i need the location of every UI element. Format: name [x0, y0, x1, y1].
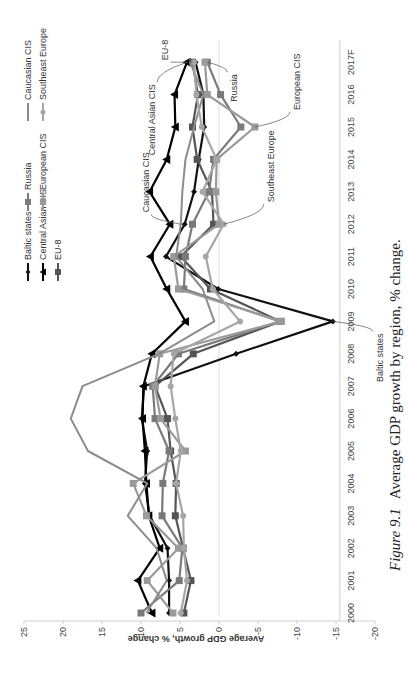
data-point-marker [212, 188, 219, 195]
figure-caption-label: Figure 9.1 [387, 508, 403, 572]
data-point-marker [205, 188, 212, 195]
series-central-asian-cis [133, 58, 190, 618]
y-tick-label: -10 [292, 627, 302, 640]
x-tick-label: 2012 [346, 214, 356, 234]
data-point-marker [138, 610, 145, 617]
rotated-chart-figure: 2520151050-5-10-15-202000200120022003200… [0, 0, 411, 681]
data-point-marker [144, 577, 151, 584]
figure-caption-text: Average GDP growth by region, % change. [387, 239, 403, 499]
chart-legend: Baltic statesCentral Asian CISEU-8Russia… [23, 28, 63, 281]
data-point-marker [164, 415, 171, 422]
annotation-label: European CIS [292, 53, 302, 110]
data-point-marker [194, 156, 201, 163]
data-point-marker [175, 286, 182, 293]
gdp-growth-line-chart: 2520151050-5-10-15-202000200120022003200… [0, 0, 411, 681]
data-point-marker [193, 92, 199, 98]
data-point-marker [199, 124, 205, 130]
x-tick-label: 2009 [346, 311, 356, 331]
data-point-marker [168, 383, 174, 389]
data-point-marker [165, 220, 173, 229]
legend-label: Caucasian CIS [23, 40, 33, 100]
x-tick-label: 2006 [346, 409, 356, 429]
x-tick-label: 2003 [346, 506, 356, 526]
legend-item-caucasian-cis: Caucasian CIS [23, 40, 33, 121]
y-tick-label: -5 [253, 627, 263, 635]
y-tick-label: 25 [19, 627, 29, 637]
x-tick-label: 2017F [346, 49, 356, 75]
data-point-marker [173, 480, 179, 486]
x-tick-label: 2004 [346, 473, 356, 493]
annotation-label: Baltic states [375, 333, 385, 382]
data-point-marker [203, 254, 209, 260]
data-point-marker [190, 350, 197, 357]
x-tick-label: 2000 [346, 603, 356, 623]
legend-label: EU-8 [53, 239, 63, 260]
series-caucasian-cis [71, 62, 215, 613]
data-point-marker [176, 577, 183, 584]
data-point-marker [237, 318, 243, 324]
x-tick-label: 2011 [346, 247, 356, 266]
annotation-southeast-europe: Southeast Europe [224, 130, 276, 224]
annotation-label: Caucasian CIS [141, 152, 151, 212]
annotation-caucasian-cis: Caucasian CIS [141, 152, 181, 224]
annotation-leader-line [255, 112, 290, 127]
legend-item-baltic-states: Baltic states [23, 211, 33, 281]
y-tick-label: 20 [58, 627, 68, 637]
data-point-marker [171, 351, 177, 357]
x-tick-label: 2002 [346, 538, 356, 558]
data-point-marker [237, 124, 244, 131]
data-point-marker [204, 91, 211, 98]
y-axis-label: Average GDP growth, % change [128, 634, 265, 644]
data-point-marker [178, 610, 184, 616]
data-point-marker [181, 545, 187, 551]
figure-page: 2520151050-5-10-15-202000200120022003200… [0, 0, 411, 681]
y-tick-label: -20 [370, 627, 380, 640]
data-point-marker [184, 578, 190, 584]
data-point-marker [152, 383, 159, 390]
annotation-baltic-states: Baltic states [333, 321, 385, 382]
data-point-marker [159, 480, 166, 487]
data-point-marker [214, 156, 220, 162]
annotation-european-cis: European CIS [255, 53, 302, 127]
data-point-marker [278, 318, 285, 325]
legend-item-eu-8: EU-8 [53, 239, 63, 281]
data-point-marker [233, 351, 239, 357]
legend-item-russia: Russia [23, 162, 33, 211]
figure-caption: Figure 9.1 Average GDP growth by region,… [387, 239, 403, 572]
data-point-marker [143, 512, 150, 519]
legend-label: European CIS [38, 133, 48, 190]
x-tick-label: 2014 [346, 149, 356, 169]
x-tick-label: 2001 [346, 571, 356, 591]
data-point-marker [180, 513, 186, 519]
data-point-marker [172, 416, 178, 422]
annotation-label: EU-8 [160, 40, 170, 61]
data-point-marker [146, 252, 154, 261]
legend-item-southeast-europe: Southeast Europe [38, 28, 48, 121]
x-tick-label: 2010 [346, 279, 356, 299]
x-tick-label: 2007 [346, 376, 356, 396]
x-tick-label: 2013 [346, 182, 356, 202]
annotation-leader-line [224, 204, 264, 224]
annotation-label: Central Asian CIS [147, 84, 157, 155]
data-point-marker [169, 610, 176, 617]
data-point-marker [189, 221, 196, 228]
data-point-marker [130, 480, 137, 487]
series-layer [71, 58, 336, 618]
legend-label: Baltic states [23, 211, 33, 260]
x-tick-label: 2008 [346, 344, 356, 364]
x-tick-label: 2016 [346, 85, 356, 105]
data-point-marker [175, 545, 182, 552]
y-tick-label: -15 [331, 627, 341, 640]
series-line [71, 62, 215, 613]
x-tick-label: 2015 [346, 117, 356, 137]
data-point-marker [159, 512, 166, 519]
y-tick-label: 0 [214, 627, 224, 632]
data-point-marker [133, 576, 141, 585]
legend-label: Southeast Europe [38, 28, 48, 100]
data-point-marker [166, 448, 173, 455]
data-point-marker [182, 253, 189, 260]
annotation-label: Southeast Europe [266, 130, 276, 202]
data-point-marker [178, 448, 184, 454]
y-tick-label: 5 [175, 627, 185, 632]
data-point-marker [191, 189, 197, 195]
